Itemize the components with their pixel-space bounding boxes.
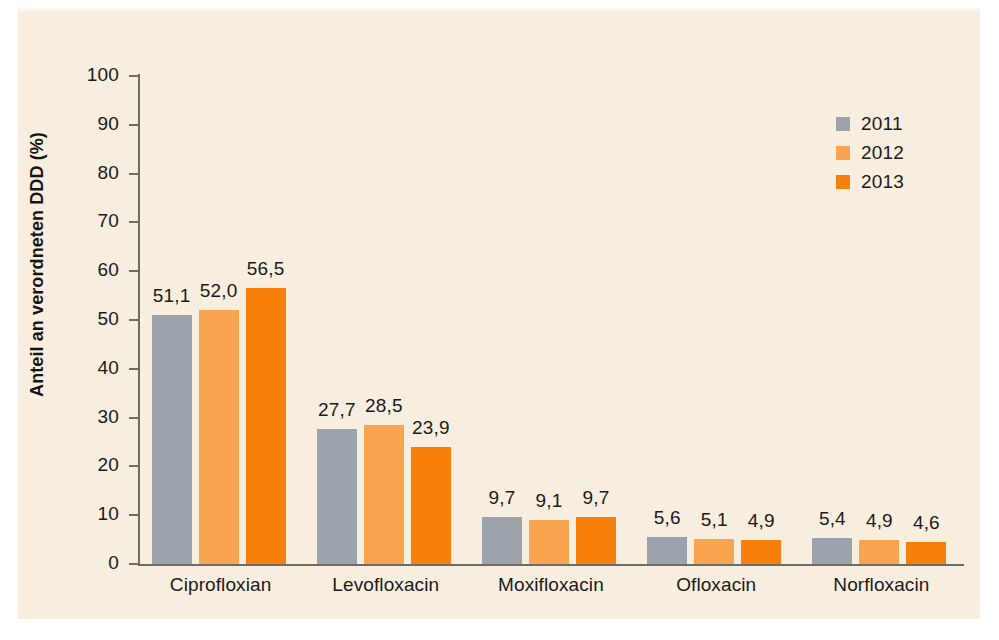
bar-value-label: 52,0 <box>190 280 248 302</box>
y-tick-label: 90 <box>73 113 119 135</box>
bar-value-label: 23,9 <box>402 417 460 439</box>
bar-levofloxacin-2012 <box>364 425 404 564</box>
legend-swatch-icon <box>836 146 850 160</box>
legend-label: 2013 <box>861 171 904 193</box>
bar-ofloxacin-2011 <box>647 537 687 564</box>
y-tick-label: 80 <box>73 162 119 184</box>
bar-ofloxacin-2013 <box>741 540 781 564</box>
bar-norfloxacin-2011 <box>812 538 852 564</box>
y-tick-label: 20 <box>73 454 119 476</box>
chart-panel: Anteil an verordneten DDD (%) 1009080706… <box>18 8 980 619</box>
y-tick-mark <box>129 270 138 272</box>
y-tick-mark <box>129 75 138 77</box>
y-tick-label: 30 <box>73 406 119 428</box>
y-tick-label: 70 <box>73 210 119 232</box>
y-tick-label: 40 <box>73 357 119 379</box>
legend-swatch-icon <box>836 175 850 189</box>
bar-moxifloxacin-2013 <box>576 517 616 564</box>
bar-value-label: 9,7 <box>567 487 625 509</box>
legend-item-2012[interactable]: 2012 <box>836 138 904 167</box>
y-tick-mark <box>129 417 138 419</box>
y-tick-mark <box>129 173 138 175</box>
y-tick-mark <box>129 319 138 321</box>
bar-ofloxacin-2012 <box>694 539 734 564</box>
bar-value-label: 4,6 <box>897 512 955 534</box>
y-tick-mark <box>129 514 138 516</box>
bar-value-label: 56,5 <box>237 258 295 280</box>
x-category-label: Norfloxacin <box>779 574 984 596</box>
y-tick-label: 10 <box>73 503 119 525</box>
y-tick-label: 60 <box>73 259 119 281</box>
bar-value-label: 4,9 <box>732 510 790 532</box>
y-tick-mark <box>129 368 138 370</box>
y-tick-mark <box>129 563 138 565</box>
legend-label: 2011 <box>861 113 903 135</box>
x-axis-line <box>138 564 964 566</box>
y-tick-mark <box>129 124 138 126</box>
y-tick-label: 100 <box>73 64 119 86</box>
bar-ciprofloxian-2011 <box>152 315 192 564</box>
bar-moxifloxacin-2012 <box>529 520 569 564</box>
legend-item-2013[interactable]: 2013 <box>836 167 904 196</box>
bar-levofloxacin-2013 <box>411 447 451 564</box>
bar-ciprofloxian-2012 <box>199 310 239 564</box>
bar-value-label: 28,5 <box>355 395 413 417</box>
chart-figure: Anteil an verordneten DDD (%) 1009080706… <box>0 0 999 640</box>
bar-moxifloxacin-2011 <box>482 517 522 564</box>
y-tick-mark <box>129 221 138 223</box>
y-axis-title: Anteil an verordneten DDD (%) <box>27 50 48 480</box>
bar-norfloxacin-2012 <box>859 540 899 564</box>
y-tick-mark <box>129 465 138 467</box>
bar-ciprofloxian-2013 <box>246 288 286 564</box>
y-tick-label: 0 <box>73 552 119 574</box>
bar-levofloxacin-2011 <box>317 429 357 564</box>
legend-label: 2012 <box>861 142 904 164</box>
chart-legend: 201120122013 <box>836 109 904 196</box>
y-tick-label: 50 <box>73 308 119 330</box>
legend-item-2011[interactable]: 2011 <box>836 109 904 138</box>
legend-swatch-icon <box>836 117 850 131</box>
bar-norfloxacin-2013 <box>906 542 946 564</box>
